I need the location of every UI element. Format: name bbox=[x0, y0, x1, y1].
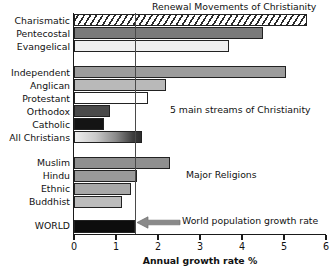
x-tick-6 bbox=[325, 235, 326, 240]
x-tick-label-3: 3 bbox=[189, 241, 211, 252]
x-axis-title: Annual growth rate % bbox=[74, 255, 326, 266]
x-tick-0 bbox=[73, 235, 74, 240]
left-arrow-icon bbox=[137, 216, 181, 229]
x-tick-2 bbox=[157, 235, 158, 240]
annotation-main-streams: 5 main streams of Christianity bbox=[170, 104, 311, 115]
x-tick-4 bbox=[241, 235, 242, 240]
bar-all-christians bbox=[74, 131, 142, 143]
x-tick-label-0: 0 bbox=[63, 241, 85, 252]
x-tick-1 bbox=[115, 235, 116, 240]
bar-protestant bbox=[74, 92, 148, 104]
bar-catholic bbox=[74, 118, 104, 130]
bar-pentecostal bbox=[74, 27, 263, 39]
y-label-charismatic: Charismatic bbox=[0, 16, 70, 26]
y-label-evangelical: Evangelical bbox=[0, 42, 70, 52]
annotation-world-growth-rate: World population growth rate bbox=[182, 215, 318, 226]
bar-independent bbox=[74, 66, 286, 78]
bar-anglican bbox=[74, 79, 166, 91]
bar-ethnic bbox=[74, 183, 131, 195]
bar-orthodox bbox=[74, 105, 110, 117]
bar-buddhist bbox=[74, 196, 122, 208]
x-tick-label-5: 5 bbox=[273, 241, 295, 252]
bar-muslim bbox=[74, 157, 170, 169]
x-tick-label-6: 6 bbox=[315, 241, 333, 252]
y-label-protestant: Protestant bbox=[0, 94, 70, 104]
x-tick-label-1: 1 bbox=[105, 241, 127, 252]
annotation-renewal-movements: Renewal Movements of Christianity bbox=[152, 1, 316, 12]
y-label-pentecostal: Pentecostal bbox=[0, 29, 70, 39]
bar-charismatic bbox=[74, 14, 307, 26]
bar-world bbox=[74, 220, 135, 233]
annotation-major-religions: Major Religions bbox=[186, 169, 257, 180]
growth-rate-bar-chart: Charismatic Pentecostal Evangelical Inde… bbox=[0, 0, 333, 276]
y-label-hindu: Hindu bbox=[0, 171, 70, 181]
plot-area bbox=[74, 13, 326, 235]
bar-evangelical bbox=[74, 40, 229, 52]
y-label-ethnic: Ethnic bbox=[0, 184, 70, 194]
y-axis-category-labels: Charismatic Pentecostal Evangelical Inde… bbox=[0, 0, 70, 276]
y-axis-line bbox=[73, 13, 74, 235]
y-label-muslim: Muslim bbox=[0, 158, 70, 168]
reference-line-world-growth bbox=[135, 13, 136, 235]
y-label-world: WORLD bbox=[0, 221, 70, 231]
y-label-catholic: Catholic bbox=[0, 120, 70, 130]
x-tick-5 bbox=[283, 235, 284, 240]
y-label-anglican: Anglican bbox=[0, 81, 70, 91]
y-label-orthodox: Orthodox bbox=[0, 107, 70, 117]
x-tick-label-2: 2 bbox=[147, 241, 169, 252]
y-label-independent: Independent bbox=[0, 68, 70, 78]
y-label-buddhist: Buddhist bbox=[0, 197, 70, 207]
y-label-all-christians: All Christians bbox=[0, 133, 70, 143]
bar-hindu bbox=[74, 170, 137, 182]
x-tick-3 bbox=[199, 235, 200, 240]
x-tick-label-4: 4 bbox=[231, 241, 253, 252]
